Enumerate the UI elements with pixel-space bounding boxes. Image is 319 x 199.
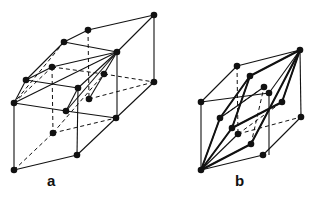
solid-edge — [300, 50, 301, 117]
dashed-edge — [104, 74, 154, 82]
lattice-node — [101, 71, 108, 78]
dashed-edge — [237, 66, 238, 134]
lattice-node — [50, 130, 57, 137]
dashed-edge — [53, 74, 104, 133]
lattice-node — [260, 152, 267, 159]
lattice-node — [248, 141, 255, 148]
solid-edge — [78, 52, 117, 88]
lattice-node — [11, 167, 18, 174]
lattice-node — [279, 99, 286, 106]
panel-b-label: b — [235, 172, 244, 189]
lattice-node — [266, 90, 273, 97]
dashed-edge — [14, 42, 64, 103]
solid-edge — [66, 111, 116, 118]
solid-edge — [64, 42, 117, 52]
lattice-node — [297, 47, 304, 54]
solid-edge — [14, 103, 66, 111]
lattice-node — [261, 84, 268, 91]
lattice-node — [198, 99, 205, 106]
lattice-node — [114, 49, 121, 56]
lattice-node — [74, 152, 81, 159]
diagram-canvas — [0, 0, 319, 199]
lattice-node — [86, 96, 93, 103]
solid-edge — [88, 15, 154, 30]
dashed-edge — [52, 67, 53, 133]
dashed-edge — [88, 30, 89, 99]
lattice-node — [151, 79, 158, 86]
panel-a-lattice — [11, 12, 158, 174]
lattice-node — [235, 131, 242, 138]
dashed-edge — [14, 133, 53, 170]
lattice-node — [49, 64, 56, 71]
solid-edge — [14, 155, 77, 170]
lattice-node — [298, 114, 305, 121]
lattice-node — [234, 63, 241, 70]
lattice-node — [23, 77, 30, 84]
lattice-node — [61, 39, 68, 46]
solid-edge — [64, 30, 88, 42]
solid-edge — [220, 87, 264, 118]
lattice-node — [113, 115, 120, 122]
solid-edge — [26, 67, 52, 80]
lattice-node — [75, 85, 82, 92]
lattice-node — [11, 100, 18, 107]
solid-edge — [117, 15, 154, 52]
panel-b-lattice — [198, 47, 305, 174]
lattice-node — [63, 108, 70, 115]
lattice-node — [151, 12, 158, 19]
solid-edge — [201, 66, 237, 102]
panel-a-label: a — [47, 172, 55, 189]
solid-edge — [52, 52, 117, 67]
lattice-node — [198, 167, 205, 174]
solid-edge — [66, 52, 117, 111]
lattice-node — [247, 73, 254, 80]
solid-edge — [77, 118, 116, 155]
heavy-edge — [251, 50, 300, 144]
lattice-node — [229, 125, 236, 132]
lattice-node — [217, 115, 224, 122]
dashed-edge — [238, 102, 282, 134]
solid-edge — [116, 82, 154, 118]
heavy-edge — [220, 76, 250, 118]
dashed-edge — [53, 118, 116, 133]
lattice-node — [85, 27, 92, 34]
